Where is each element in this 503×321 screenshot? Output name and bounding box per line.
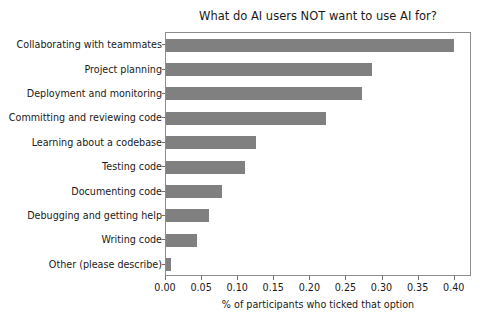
x-axis-tick-label: 0.40: [443, 282, 464, 293]
bar-row: [166, 155, 472, 179]
y-axis-tick-mark: [162, 93, 166, 94]
bar: [166, 112, 326, 125]
x-axis-tick-label: 0.00: [154, 282, 175, 293]
chart-title: What do AI users NOT want to use AI for?: [165, 9, 471, 23]
bar-row: [166, 131, 472, 155]
y-axis-tick-label: Other (please describe): [49, 258, 162, 269]
x-axis-tick-label: 0.20: [299, 282, 320, 293]
y-axis-tick-label: Testing code: [102, 161, 162, 172]
bar: [166, 63, 372, 76]
y-axis-tick-mark: [162, 69, 166, 70]
bar-row: [166, 33, 472, 57]
bar: [166, 234, 197, 247]
x-axis-tick-mark: [237, 276, 238, 280]
x-axis-tick-mark: [309, 276, 310, 280]
y-axis-tick-label: Learning about a codebase: [32, 136, 162, 147]
x-axis-tick-mark: [165, 276, 166, 280]
y-axis-tick-mark: [162, 44, 166, 45]
x-axis-tick-label: 0.05: [190, 282, 211, 293]
x-axis-tick-mark: [418, 276, 419, 280]
y-axis-tick-label: Project planning: [84, 63, 162, 74]
y-axis-tick-label: Debugging and getting help: [27, 210, 162, 221]
bar-row: [166, 253, 472, 277]
x-axis-tick-label: 0.10: [226, 282, 247, 293]
bar: [166, 185, 222, 198]
bar-row: [166, 82, 472, 106]
bar: [166, 209, 209, 222]
x-axis-tick-label: 0.25: [335, 282, 356, 293]
bar: [166, 161, 245, 174]
bar-row: [166, 228, 472, 252]
bar: [166, 87, 362, 100]
y-axis-tick-label: Deployment and monitoring: [27, 88, 162, 99]
x-axis-tick-label: 0.35: [407, 282, 428, 293]
y-axis-tick-mark: [162, 166, 166, 167]
y-axis-tick-label: Committing and reviewing code: [9, 112, 162, 123]
bars-layer: [166, 33, 470, 275]
y-axis-tick-label: Collaborating with teammates: [17, 39, 162, 50]
y-axis-tick-mark: [162, 239, 166, 240]
x-axis-tick-mark: [273, 276, 274, 280]
x-axis-tick-mark: [201, 276, 202, 280]
y-axis-tick-label: Writing code: [102, 234, 162, 245]
bar: [166, 258, 171, 271]
bar-row: [166, 57, 472, 81]
chart-figure: What do AI users NOT want to use AI for?…: [0, 0, 503, 321]
y-axis-tick-mark: [162, 117, 166, 118]
x-axis-tick-label: 0.30: [371, 282, 392, 293]
x-axis-tick-mark: [345, 276, 346, 280]
y-axis-tick-mark: [162, 264, 166, 265]
x-axis-tick-mark: [454, 276, 455, 280]
bar-row: [166, 179, 472, 203]
x-axis-tick-mark: [382, 276, 383, 280]
y-axis-tick-mark: [162, 215, 166, 216]
y-axis-tick-label: Documenting code: [71, 185, 162, 196]
plot-area: [165, 32, 471, 276]
y-axis-tick-mark: [162, 142, 166, 143]
x-axis-tick-label: 0.15: [263, 282, 284, 293]
y-axis-tick-mark: [162, 191, 166, 192]
bar: [166, 39, 454, 52]
bar-row: [166, 204, 472, 228]
x-axis-label: % of participants who ticked that option: [165, 299, 471, 310]
bar-row: [166, 106, 472, 130]
bar: [166, 136, 256, 149]
